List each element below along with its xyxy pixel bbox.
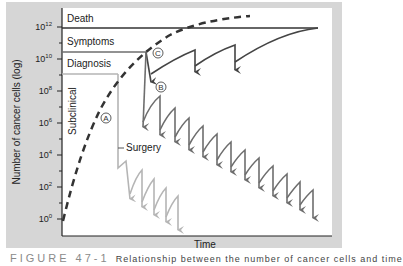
zone-subclinical: Subclinical (67, 87, 78, 135)
zone-death: Death (67, 13, 94, 24)
y-ticks (57, 27, 62, 219)
svg-text:1012: 1012 (35, 21, 52, 32)
svg-text:100: 100 (39, 213, 53, 224)
y-axis-label: Number of cancer cells (log) (11, 59, 22, 184)
svg-text:1010: 1010 (35, 53, 52, 64)
caption-text: Relationship between the number of cance… (116, 254, 403, 264)
surgery-annotation: Surgery (126, 142, 161, 153)
x-axis-label: Time (194, 239, 216, 250)
label-a: A (103, 114, 109, 123)
svg-text:102: 102 (39, 181, 53, 192)
caption-label: FIGURE 47-1 (10, 252, 110, 264)
zone-symptoms: Symptoms (67, 36, 114, 47)
y-tick-labels: 1012 1010 108 106 104 102 100 (35, 21, 52, 224)
svg-text:108: 108 (39, 85, 53, 96)
svg-text:104: 104 (39, 149, 53, 160)
figure-caption: FIGURE 47-1Relationship between the numb… (10, 252, 403, 264)
label-b: B (158, 83, 163, 92)
zone-diagnosis: Diagnosis (67, 58, 111, 69)
svg-text:106: 106 (39, 117, 53, 128)
label-c: C (155, 49, 161, 58)
